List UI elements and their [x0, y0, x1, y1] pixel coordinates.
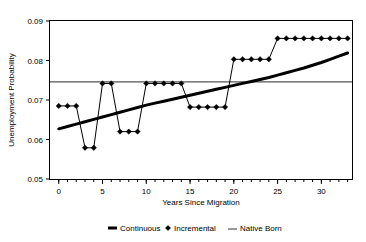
legend: Continuous Incremental Native Born	[108, 224, 282, 233]
legend-label-native-born: Native Born	[240, 224, 282, 233]
y-tick-label: 0.07	[27, 96, 43, 105]
x-tick-label: 25	[273, 187, 282, 196]
x-axis-label: Years Since Migration	[162, 198, 240, 207]
y-tick-label: 0.09	[27, 17, 43, 26]
x-tick-label: 0	[57, 187, 62, 196]
unemployment-probability-chart: 0.050.060.070.080.09 051015202530 Years …	[0, 0, 366, 242]
x-tick-label: 5	[100, 187, 105, 196]
legend-label-continuous: Continuous	[120, 224, 160, 233]
y-axis-label: Unemployment Probability	[7, 53, 16, 146]
legend-label-incremental: Incremental	[174, 224, 216, 233]
y-tick-label: 0.05	[27, 175, 43, 184]
y-tick-label: 0.06	[27, 136, 43, 145]
x-tick-label: 10	[142, 187, 151, 196]
x-tick-label: 20	[229, 187, 238, 196]
x-tick-label: 30	[317, 187, 326, 196]
y-tick-label: 0.08	[27, 57, 43, 66]
x-tick-label: 15	[186, 187, 195, 196]
